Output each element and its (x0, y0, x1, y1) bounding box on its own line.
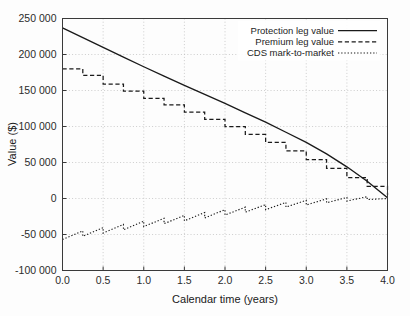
x-tick-label: 0.0 (55, 274, 70, 286)
x-axis-title: Calendar time (years) (172, 293, 278, 305)
x-tick-label: 0.5 (96, 274, 111, 286)
x-tick-label: 1.0 (136, 274, 151, 286)
legend-label: Protection leg value (251, 25, 334, 36)
chart-figure: 0.00.51.01.52.02.53.03.54.0 -100 000-50 … (0, 0, 410, 316)
chart-legend: Protection leg valuePremium leg valueCDS… (238, 21, 380, 61)
y-tick-label: 100 000 (19, 120, 57, 132)
x-tick-label: 2.5 (258, 274, 273, 286)
y-tick-label: -50 000 (21, 228, 57, 240)
chart-svg: 0.00.51.01.52.02.53.03.54.0 -100 000-50 … (0, 0, 410, 316)
y-axis-title: Value ($) (6, 122, 18, 166)
legend-label: CDS mark-to-market (247, 47, 334, 58)
x-tick-label: 2.0 (218, 274, 233, 286)
x-tick-label: 1.5 (177, 274, 192, 286)
y-tick-label: 250 000 (19, 12, 57, 24)
y-tick-label: 200 000 (19, 48, 57, 60)
y-tick-label: -100 000 (15, 264, 57, 276)
y-tick-label: 150 000 (19, 84, 57, 96)
x-axis-ticks: 0.00.51.01.52.02.53.03.54.0 (55, 267, 395, 286)
x-tick-label: 3.0 (299, 274, 314, 286)
x-tick-label: 3.5 (340, 274, 355, 286)
y-tick-label: 0 (51, 192, 57, 204)
x-tick-label: 4.0 (380, 274, 395, 286)
legend-label: Premium leg value (255, 36, 334, 47)
y-tick-label: 50 000 (24, 156, 56, 168)
y-axis-ticks: -100 000-50 000050 000100 000150 000200 … (15, 12, 66, 276)
